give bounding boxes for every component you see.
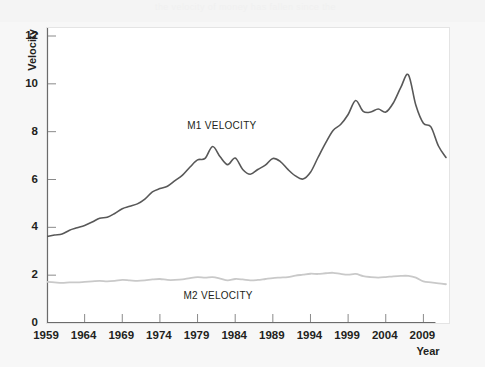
series-line-m2-velocity [47, 273, 446, 284]
figure-container: the velocity of money has fallen since t… [0, 0, 485, 367]
series-line-m1-velocity [47, 74, 446, 236]
y-tick-label: 2 [12, 268, 38, 280]
y-tick-label: 8 [12, 125, 38, 137]
y-tick-label: 0 [12, 316, 38, 328]
x-axis-title: Year [416, 345, 439, 357]
faint-header-text: the velocity of money has fallen since t… [155, 2, 336, 12]
series-label-m2-velocity: M2 VELOCITY [183, 290, 252, 301]
y-tick-label: 4 [12, 220, 38, 232]
series-label-m1-velocity: M1 VELOCITY [187, 120, 256, 131]
y-tick-label: 10 [12, 77, 38, 89]
x-tick-label: 2009 [397, 329, 447, 341]
y-tick-label: 6 [12, 173, 38, 185]
chart-svg [47, 28, 449, 323]
y-tick-label: 12 [12, 29, 38, 41]
plot-area [46, 27, 450, 324]
